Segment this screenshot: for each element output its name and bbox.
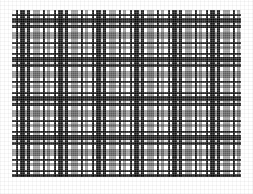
- tartan-fabric-swatch: [12, 10, 241, 177]
- page-canvas: [0, 0, 253, 194]
- weft-stripes-layer: [12, 10, 241, 177]
